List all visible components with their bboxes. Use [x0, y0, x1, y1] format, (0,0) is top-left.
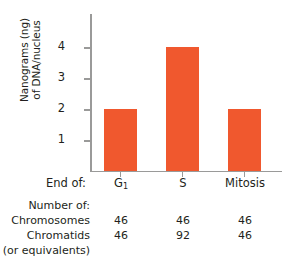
table-footnote: (or equivalents)	[0, 244, 90, 258]
cell-chromatids-mitosis: 46	[215, 229, 275, 243]
y-axis-title-line-2: of DNA/nucleus	[30, 20, 43, 99]
table-row-chromatids: Chromatids 46 92 46	[0, 229, 291, 243]
y-tick-label-4: 4	[47, 41, 65, 53]
data-table: Number of: Chromosomes 46 46 46 Chromati…	[0, 199, 291, 263]
row-label-chromatids: Chromatids	[0, 229, 90, 243]
y-tick-label-2: 2	[47, 103, 65, 115]
cell-chromosomes-mitosis: 46	[215, 214, 275, 228]
y-axis-title-line-1: Nanograms (ng)	[18, 18, 31, 102]
cell-chromatids-s: 92	[153, 229, 213, 243]
y-tick-label-3: 3	[47, 72, 65, 84]
y-tick-mark-3	[84, 78, 91, 80]
cell-chromosomes-s: 46	[153, 214, 213, 228]
y-tick-mark-2	[84, 109, 91, 111]
cell-chromatids-g1: 46	[91, 229, 151, 243]
plot-area: Nanograms (ng) of DNA/nucleus 4 3 2 1	[0, 0, 291, 180]
table-footnote-row: (or equivalents)	[0, 244, 291, 258]
row-label-chromosomes: Chromosomes	[0, 214, 90, 228]
y-axis-title: Nanograms (ng) of DNA/nucleus	[16, 0, 44, 120]
table-header-row: Number of:	[0, 199, 291, 213]
category-label-g1-subscript: 1	[123, 182, 128, 191]
table-row-chromosomes: Chromosomes 46 46 46	[0, 214, 291, 228]
y-tick-label-1: 1	[47, 134, 65, 146]
table-header-label: Number of:	[0, 199, 90, 213]
bar-mitosis	[228, 109, 261, 171]
cell-chromosomes-g1: 46	[91, 214, 151, 228]
category-label-mitosis: Mitosis	[215, 174, 275, 192]
y-tick-mark-4	[84, 47, 91, 49]
category-label-g1-base: G	[114, 176, 123, 190]
bar-s	[166, 47, 199, 171]
category-row-label: End of:	[0, 174, 86, 192]
bar-g1	[104, 109, 137, 171]
category-label-s: S	[153, 174, 213, 192]
y-tick-mark-1	[84, 140, 91, 142]
category-row: End of: G1 S Mitosis	[0, 174, 291, 192]
y-axis-line	[90, 14, 92, 172]
category-label-g1: G1	[91, 174, 151, 194]
y-axis-tick-labels: 4 3 2 1	[45, 0, 65, 180]
dna-content-bar-chart-figure: Nanograms (ng) of DNA/nucleus 4 3 2 1 En…	[0, 0, 291, 263]
